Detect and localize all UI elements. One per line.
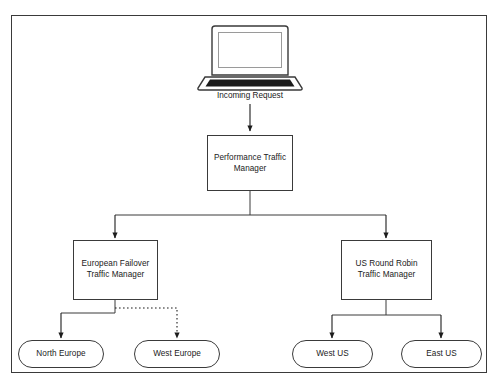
diagram-canvas: Incoming Request Performance Traffic Man…	[0, 0, 498, 384]
node-european-failover-traffic-manager[interactable]	[73, 240, 158, 300]
node-performance-traffic-manager[interactable]	[207, 135, 293, 191]
node-east-us[interactable]	[401, 340, 482, 368]
edge-european-to-west-europe-dotted	[115, 308, 177, 338]
node-north-europe[interactable]	[18, 340, 104, 368]
node-west-europe[interactable]	[134, 340, 220, 368]
node-west-us[interactable]	[292, 340, 373, 368]
node-us-round-robin-traffic-manager[interactable]	[341, 240, 432, 300]
client-laptop-node[interactable]	[198, 26, 302, 90]
